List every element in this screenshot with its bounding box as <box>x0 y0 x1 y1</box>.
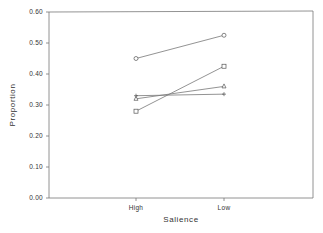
x-ticks: HighLow <box>129 198 231 212</box>
y-tick-label: 0.50 <box>29 39 43 46</box>
series-triangle <box>134 84 226 100</box>
y-tick-label: 0.40 <box>29 70 43 77</box>
series-square <box>134 64 226 113</box>
triangle-marker <box>222 84 226 88</box>
y-tick-label: 0.20 <box>29 132 43 139</box>
square-marker <box>134 109 138 113</box>
square-marker <box>222 64 226 68</box>
y-ticks: 0.000.100.200.300.400.500.60 <box>29 8 49 201</box>
y-tick-label: 0.60 <box>29 8 43 15</box>
plus-marker <box>222 92 226 96</box>
y-tick-label: 0.30 <box>29 101 43 108</box>
series-circle <box>134 33 226 60</box>
plus-marker <box>134 94 138 98</box>
x-tick-label: Low <box>218 204 231 211</box>
circle-marker <box>134 57 138 61</box>
line-chart: 0.000.100.200.300.400.500.60 HighLow Sal… <box>0 0 323 233</box>
y-tick-label: 0.00 <box>29 194 43 201</box>
data-series <box>134 33 226 113</box>
x-axis-title: Salience <box>163 215 199 224</box>
plot-frame <box>49 11 313 198</box>
x-tick-label: High <box>129 204 144 212</box>
y-axis-title: Proportion <box>8 84 17 127</box>
circle-marker <box>222 33 226 37</box>
y-tick-label: 0.10 <box>29 163 43 170</box>
top-border <box>49 11 313 12</box>
